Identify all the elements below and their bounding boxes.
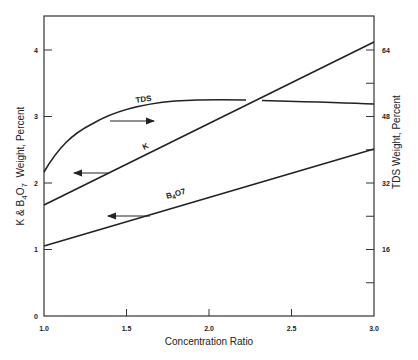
- plot-frame: [44, 16, 374, 316]
- svg-text:64: 64: [382, 47, 390, 54]
- right-tick-labels: 16 32 48 64: [382, 47, 390, 254]
- b4o7-label: B4O7: [165, 187, 187, 202]
- k-label: K: [141, 141, 150, 152]
- svg-text:1.0: 1.0: [39, 325, 49, 332]
- svg-text:2.0: 2.0: [204, 325, 214, 332]
- tds-label: TDS: [135, 94, 153, 105]
- x-axis: [127, 309, 292, 316]
- x-tick-labels: 1.0 1.5 2.0 2.5 3.0: [39, 325, 379, 332]
- svg-text:32: 32: [382, 180, 390, 187]
- svg-text:1: 1: [34, 246, 38, 253]
- left-axis-label: K & B4O7 Weight, Percent: [15, 106, 29, 225]
- svg-text:4: 4: [34, 47, 38, 54]
- svg-text:3.0: 3.0: [369, 325, 379, 332]
- tds-curve: [44, 100, 246, 172]
- svg-text:2: 2: [34, 180, 38, 187]
- svg-text:2.5: 2.5: [287, 325, 297, 332]
- chart: 0 1 2 3 4 16 32 48 64 1.0 1.5 2.0 2.5 3.…: [0, 0, 418, 360]
- left-axis: [44, 50, 52, 250]
- right-axis-label: TDS Weight, Percent: [391, 95, 402, 189]
- svg-text:1.5: 1.5: [122, 325, 132, 332]
- svg-text:3: 3: [34, 113, 38, 120]
- right-axis: [366, 50, 374, 283]
- svg-text:0: 0: [34, 313, 38, 320]
- b4o7-line: [44, 149, 374, 246]
- svg-text:16: 16: [382, 246, 390, 253]
- x-axis-label: Concentration Ratio: [165, 336, 254, 347]
- svg-text:48: 48: [382, 113, 390, 120]
- left-tick-labels: 0 1 2 3 4: [34, 47, 38, 320]
- tds-curve-continued: [262, 101, 374, 105]
- chart-svg: 0 1 2 3 4 16 32 48 64 1.0 1.5 2.0 2.5 3.…: [0, 0, 418, 360]
